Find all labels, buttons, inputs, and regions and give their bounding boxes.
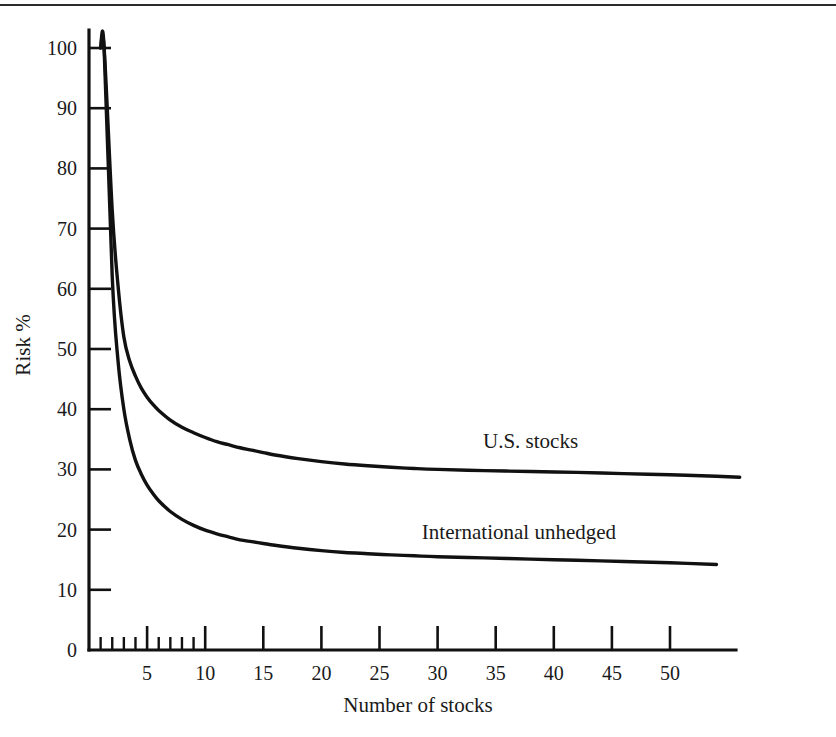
x-tick-label-20: 20 xyxy=(311,662,331,684)
y-tick-label-90: 90 xyxy=(57,97,77,119)
series-label-international-unhedged: International unhedged xyxy=(422,520,617,544)
y-axis-title: Risk % xyxy=(11,314,35,375)
x-tick-label-10: 10 xyxy=(195,662,215,684)
y-tick-label-10: 10 xyxy=(57,579,77,601)
series-label-us-stocks: U.S. stocks xyxy=(483,429,578,453)
y-tick-label-50: 50 xyxy=(57,338,77,360)
y-tick-label-40: 40 xyxy=(57,398,77,420)
x-tick-label-5: 5 xyxy=(142,662,152,684)
y-tick-label-70: 70 xyxy=(57,218,77,240)
x-axis-ticks xyxy=(101,626,670,650)
series-line-us-stocks xyxy=(101,36,740,477)
series-lines xyxy=(101,31,740,564)
x-tick-label-30: 30 xyxy=(428,662,448,684)
y-tick-label-80: 80 xyxy=(57,157,77,179)
x-tick-label-25: 25 xyxy=(370,662,390,684)
y-tick-label-100: 100 xyxy=(47,37,77,59)
x-tick-label-35: 35 xyxy=(486,662,506,684)
risk-diversification-chart: 0102030405060708090100 51015202530354045… xyxy=(0,0,836,737)
series-inline-labels: U.S. stocksInternational unhedged xyxy=(422,429,617,543)
series-line-international-unhedged xyxy=(101,31,717,564)
y-tick-label-20: 20 xyxy=(57,519,77,541)
x-axis-title: Number of stocks xyxy=(343,693,492,717)
x-tick-label-50: 50 xyxy=(660,662,680,684)
x-tick-label-40: 40 xyxy=(544,662,564,684)
x-tick-label-15: 15 xyxy=(253,662,273,684)
x-axis-tick-labels: 5101520253035404550 xyxy=(142,662,680,684)
y-tick-label-0: 0 xyxy=(67,639,77,661)
x-tick-label-45: 45 xyxy=(602,662,622,684)
y-tick-label-30: 30 xyxy=(57,458,77,480)
y-axis-tick-labels: 0102030405060708090100 xyxy=(47,37,77,661)
figure-container: 0102030405060708090100 51015202530354045… xyxy=(0,0,836,737)
y-tick-label-60: 60 xyxy=(57,278,77,300)
